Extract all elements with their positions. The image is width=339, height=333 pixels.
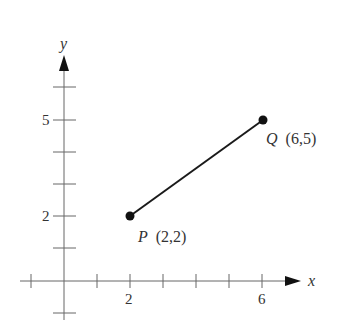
x-axis bbox=[20, 274, 301, 288]
point-p bbox=[126, 212, 135, 221]
y-tick-label-5: 5 bbox=[42, 112, 50, 128]
segment-pq bbox=[130, 120, 263, 216]
point-p-coords: (2,2) bbox=[156, 228, 187, 246]
point-q bbox=[259, 116, 268, 125]
point-q-label: Q (6,5) bbox=[266, 130, 316, 148]
coordinate-diagram: x y 2 6 2 5 P (2,2) Q (6,5) bbox=[0, 0, 339, 333]
point-p-name: P bbox=[137, 228, 148, 245]
x-tick-label-2: 2 bbox=[125, 291, 133, 307]
y-axis-arrow-icon bbox=[59, 55, 69, 71]
x-axis-arrow-icon bbox=[285, 276, 301, 286]
y-axis bbox=[53, 55, 76, 320]
y-axis-label: y bbox=[58, 35, 68, 53]
point-q-name: Q bbox=[266, 130, 278, 147]
x-axis-label: x bbox=[307, 272, 315, 289]
point-q-coords: (6,5) bbox=[286, 130, 317, 148]
x-tick-label-6: 6 bbox=[258, 291, 266, 307]
point-p-label: P (2,2) bbox=[137, 228, 186, 246]
y-tick-label-2: 2 bbox=[42, 208, 50, 224]
